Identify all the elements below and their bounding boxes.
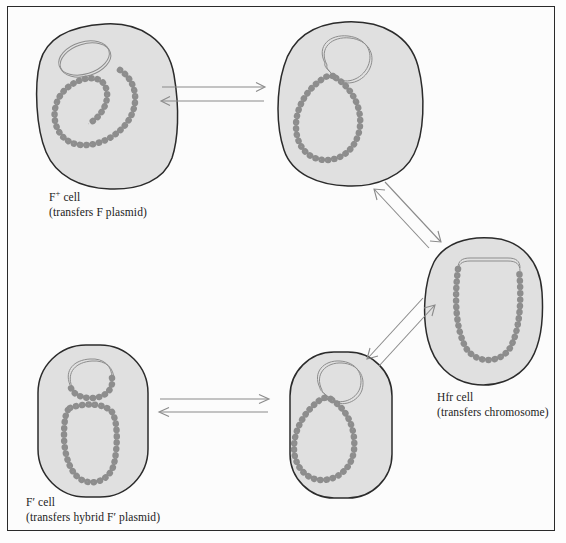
label-f-plus-line1: F+ cell bbox=[49, 190, 147, 205]
label-f-prime-cell: F′ cell (transfers hybrid F′ plasmid) bbox=[26, 495, 160, 525]
label-f-plus-cell: F+ cell (transfers F plasmid) bbox=[49, 190, 147, 220]
label-f-prime-line1: F′ cell bbox=[26, 495, 160, 510]
label-f-plus-line2: (transfers F plasmid) bbox=[49, 205, 147, 220]
figure-root: F+ cell (transfers F plasmid) F′ cell (t… bbox=[0, 0, 566, 543]
label-f-prime-line2: (transfers hybrid F′ plasmid) bbox=[26, 510, 160, 525]
label-hfr-cell: Hfr cell (transfers chromosome) bbox=[437, 390, 549, 420]
label-hfr-line1: Hfr cell bbox=[437, 390, 549, 405]
label-hfr-line2: (transfers chromosome) bbox=[437, 405, 549, 420]
figure-border-frame bbox=[7, 6, 555, 531]
